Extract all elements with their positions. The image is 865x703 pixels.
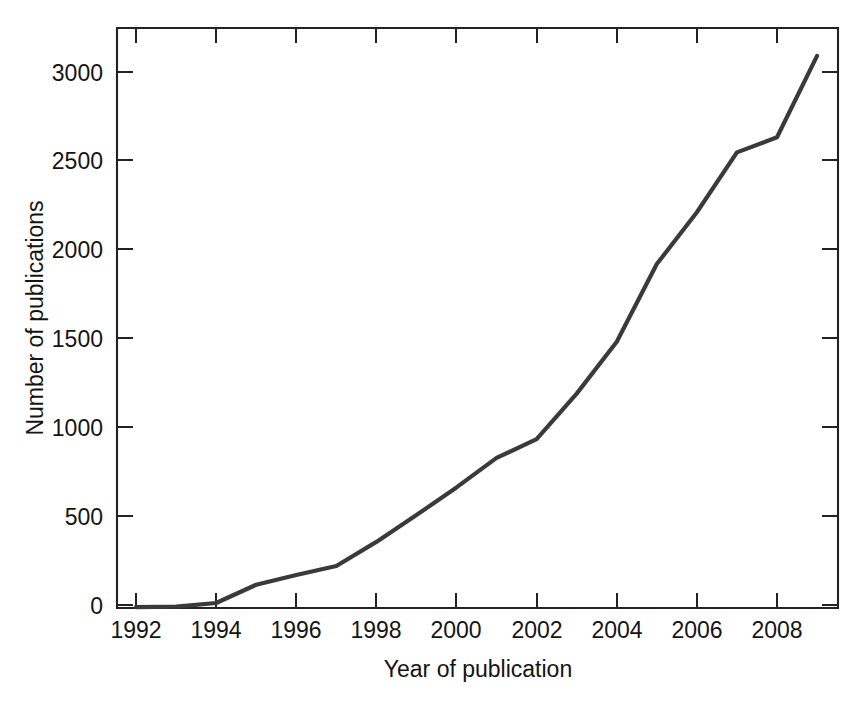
x-tick-label: 2006	[671, 617, 722, 643]
x-tick-label: 2002	[511, 617, 562, 643]
y-tick-label: 500	[65, 504, 103, 530]
x-tick-label: 2008	[751, 617, 802, 643]
y-tick-label: 3000	[52, 60, 103, 86]
chart-canvas: 3000 2500 2000 1500 1000 500 0 1992 1994…	[0, 0, 865, 703]
y-axis-ticks	[117, 72, 133, 605]
y-tick-label: 0	[90, 593, 103, 619]
y-tick-label: 1000	[52, 415, 103, 441]
line-chart-figure: 3000 2500 2000 1500 1000 500 0 1992 1994…	[0, 0, 865, 703]
x-tick-label: 2000	[430, 617, 481, 643]
x-tick-label: 1992	[110, 617, 161, 643]
x-axis-top-ticks	[136, 28, 777, 43]
x-tick-labels: 1992 1994 1996 1998 2000 2002 2004 2006 …	[110, 617, 802, 643]
plot-frame	[117, 28, 838, 608]
y-axis-title: Number of publications	[22, 200, 48, 435]
y-axis-right-ticks	[822, 72, 838, 605]
x-axis-title: Year of publication	[384, 656, 572, 682]
x-tick-label: 1996	[270, 617, 321, 643]
data-series-line	[136, 56, 817, 607]
x-tick-label: 1998	[350, 617, 401, 643]
y-tick-label: 2000	[52, 237, 103, 263]
y-tick-label: 1500	[52, 326, 103, 352]
x-tick-label: 1994	[190, 617, 241, 643]
y-tick-labels: 3000 2500 2000 1500 1000 500 0	[52, 60, 103, 619]
y-tick-label: 2500	[52, 148, 103, 174]
x-tick-label: 2004	[591, 617, 642, 643]
